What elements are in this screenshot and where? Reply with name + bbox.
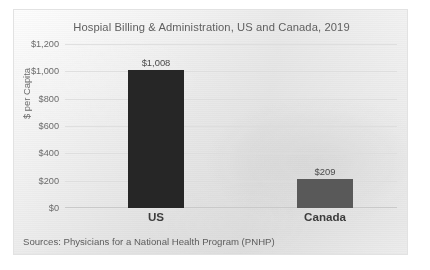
gridline-400 bbox=[65, 153, 397, 154]
y-tick-label: $600 bbox=[39, 121, 59, 131]
gridline-1200 bbox=[65, 44, 397, 45]
category-label-canada: Canada bbox=[304, 210, 346, 223]
gridline-800 bbox=[65, 99, 397, 100]
y-tick-label: $1,200 bbox=[31, 39, 59, 49]
bar-us[interactable]: $1,008 bbox=[128, 70, 184, 208]
chart-title: Hospial Billing & Administration, US and… bbox=[14, 21, 408, 33]
gridline-600 bbox=[65, 126, 397, 127]
y-tick-label: $1,000 bbox=[31, 66, 59, 76]
plot-area: $1,008 $209 US Canada bbox=[65, 44, 397, 208]
y-tick-label: $400 bbox=[39, 148, 59, 158]
bar-value-canada: $209 bbox=[315, 166, 336, 177]
bar-value-us: $1,008 bbox=[142, 57, 171, 68]
chart-frame: Hospial Billing & Administration, US and… bbox=[13, 9, 408, 255]
scanned-page: Hospial Billing & Administration, US and… bbox=[0, 0, 430, 270]
y-axis-tick-labels: $1,200 $1,000 $800 $600 $400 $200 $0 bbox=[22, 44, 63, 208]
y-tick-label: $0 bbox=[49, 203, 59, 213]
category-label-us: US bbox=[148, 210, 164, 223]
bar-canada[interactable]: $209 bbox=[297, 179, 353, 208]
y-tick-label: $200 bbox=[39, 176, 59, 186]
source-note: Sources: Physicians for a National Healt… bbox=[23, 236, 275, 247]
y-tick-label: $800 bbox=[39, 94, 59, 104]
gridline-1000 bbox=[65, 71, 397, 72]
